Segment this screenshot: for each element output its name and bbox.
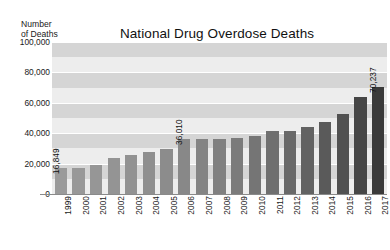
y-axis-tick-label: 40,000 (4, 128, 50, 138)
bar (196, 139, 208, 194)
bar (125, 155, 137, 194)
drug-overdose-deaths-chart: Number of Deaths National Drug Overdose … (0, 0, 390, 250)
bar (354, 97, 366, 194)
bar (90, 165, 102, 194)
bar-value-label: 16,849 (52, 149, 61, 175)
bar (231, 138, 243, 194)
bar-value-label: 70,237 (369, 68, 378, 94)
x-axis-tick-label: 2004 (152, 196, 161, 215)
x-axis-tick-label: 2012 (293, 196, 302, 215)
x-axis-tick-label: 2014 (328, 196, 337, 215)
x-axis-tick-label: 2013 (311, 196, 320, 215)
bar (284, 131, 296, 194)
bar (143, 152, 155, 194)
bar (108, 158, 120, 194)
x-axis-tick-label: 2016 (364, 196, 373, 215)
bar (319, 122, 331, 194)
x-axis-tick-label: 2008 (223, 196, 232, 215)
y-axis-tick-labels: 100,00080,00060,00040,00020,0000 (0, 42, 50, 194)
plot-area: 16,84936,01070,237 (52, 42, 387, 194)
x-axis-tick-label: 2007 (205, 196, 214, 215)
bar (72, 168, 84, 194)
y-axis-tick-label: 20,000 (4, 159, 50, 169)
bar-series (52, 42, 387, 194)
x-axis-tick-label: 2000 (82, 196, 91, 215)
x-axis-tick-label: 2015 (346, 196, 355, 215)
x-axis-tick-labels: 1999200020012002200320042005200620072008… (52, 196, 387, 248)
bar (178, 139, 190, 194)
y-axis-tick-label: 60,000 (4, 98, 50, 108)
x-axis-tick-label: 2006 (187, 196, 196, 215)
y-axis-tick-label: 100,000 (4, 37, 50, 47)
bar (249, 136, 261, 194)
x-axis-tick-label: 2002 (117, 196, 126, 215)
x-axis-tick-label: 2010 (258, 196, 267, 215)
x-axis-tick-label: 2011 (276, 196, 285, 214)
bar (266, 131, 278, 194)
y-axis-tick-label: 80,000 (4, 67, 50, 77)
x-axis-tick-label: 2005 (170, 196, 179, 215)
bar (372, 87, 384, 194)
bar-value-label: 36,010 (175, 120, 184, 146)
bar (160, 149, 172, 194)
x-axis-tick-label: 2017 (381, 196, 390, 215)
x-axis-tick-label: 2001 (99, 196, 108, 215)
bar (337, 114, 349, 194)
bar (301, 127, 313, 194)
x-axis-tick-label: 2009 (240, 196, 249, 215)
x-axis-tick-label: 2003 (135, 196, 144, 215)
bar (213, 139, 225, 194)
chart-title: National Drug Overdose Deaths (92, 26, 342, 41)
x-axis-tick-label: 1999 (64, 196, 73, 215)
